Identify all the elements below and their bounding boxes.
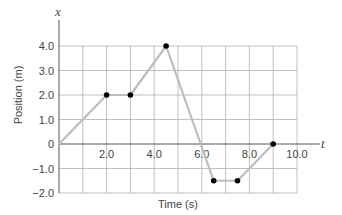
y-tick-label: 3.0: [39, 65, 54, 77]
data-point: [104, 92, 110, 98]
data-series: [59, 43, 276, 183]
y-tick-label: 4.0: [39, 40, 54, 52]
position-time-chart: 2.04.06.08.010.0 4.03.02.01.00−1.0−2.0 T…: [0, 0, 342, 215]
y-tick-label: 2.0: [39, 89, 54, 101]
t-axis-variable: t: [321, 136, 325, 151]
data-point: [128, 92, 134, 98]
y-axis-label: Position (m): [12, 66, 24, 125]
x-tick-label: 2.0: [99, 148, 114, 160]
y-tick-label: 0: [48, 138, 54, 150]
y-tick-label: 1.0: [39, 114, 54, 126]
data-point: [163, 43, 169, 49]
y-tick-label: −2.0: [32, 187, 54, 199]
data-point: [211, 178, 217, 184]
x-tick-label: 8.0: [242, 148, 257, 160]
data-point: [270, 141, 276, 147]
x-axis-variable: x: [54, 4, 61, 19]
data-line: [59, 46, 273, 181]
y-tick-labels: 4.03.02.01.00−1.0−2.0: [32, 40, 54, 199]
x-axis-label: Time (s): [158, 198, 198, 210]
x-tick-label: 4.0: [147, 148, 162, 160]
data-point: [235, 178, 241, 184]
y-tick-label: −1.0: [32, 163, 54, 175]
grid: [59, 46, 297, 193]
x-tick-label: 10.0: [286, 148, 307, 160]
